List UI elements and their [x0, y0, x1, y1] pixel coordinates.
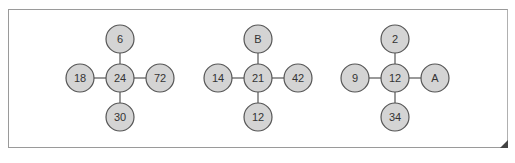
svg-text:14: 14	[212, 72, 224, 84]
cross-group-3: 2 9 12 A 34	[341, 25, 449, 131]
node-bottom: 34	[381, 103, 409, 131]
svg-text:2: 2	[392, 33, 398, 45]
node-top: B	[244, 25, 272, 53]
svg-text:34: 34	[389, 111, 401, 123]
node-center: 12	[381, 64, 409, 92]
svg-text:9: 9	[352, 72, 358, 84]
node-top: 6	[106, 25, 134, 53]
cross-group-2: B 14 21 42 12	[204, 25, 312, 131]
node-right: A	[421, 64, 449, 92]
svg-text:30: 30	[114, 111, 126, 123]
node-right: 42	[284, 64, 312, 92]
node-top: 2	[381, 25, 409, 53]
node-left: 9	[341, 64, 369, 92]
node-bottom: 30	[106, 103, 134, 131]
svg-text:72: 72	[154, 72, 166, 84]
node-left: 18	[66, 64, 94, 92]
node-center: 24	[106, 64, 134, 92]
svg-text:21: 21	[252, 72, 264, 84]
node-left: 14	[204, 64, 232, 92]
svg-text:12: 12	[252, 111, 264, 123]
svg-text:18: 18	[74, 72, 86, 84]
svg-text:A: A	[431, 72, 439, 84]
svg-text:12: 12	[389, 72, 401, 84]
cross-group-1: 6 18 24 72 30	[66, 25, 174, 131]
svg-text:B: B	[254, 33, 261, 45]
cross-diagrams: 6 18 24 72 30 B 14 21 42 12 2 9 12 A 34	[0, 0, 515, 163]
node-bottom: 12	[244, 103, 272, 131]
svg-text:6: 6	[117, 33, 123, 45]
node-center: 21	[244, 64, 272, 92]
node-right: 72	[146, 64, 174, 92]
svg-text:42: 42	[292, 72, 304, 84]
svg-text:24: 24	[114, 72, 126, 84]
